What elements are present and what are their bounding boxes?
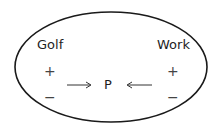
arrow-work-to-p: [127, 82, 152, 88]
golf-minus-sign: −: [44, 90, 56, 104]
work-label: Work: [157, 38, 190, 51]
arrow-golf-to-p: [67, 82, 91, 88]
p-label: P: [104, 78, 112, 91]
golf-label: Golf: [37, 38, 63, 51]
work-minus-sign: −: [167, 90, 179, 104]
golf-plus-sign: +: [44, 64, 56, 78]
work-plus-sign: +: [167, 64, 179, 78]
diagram-canvas: [0, 0, 219, 131]
